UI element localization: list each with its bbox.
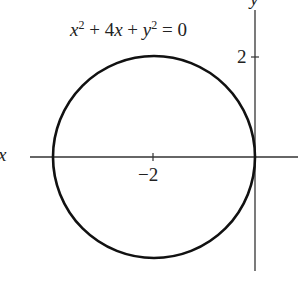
eq-y: y <box>143 19 151 40</box>
graph <box>0 0 303 291</box>
x-tick-label: −2 <box>138 164 158 186</box>
eq-end: = 0 <box>157 19 187 40</box>
eq-mid: + 4x + <box>84 19 142 40</box>
equation-label: x2 + 4x + y2 = 0 <box>70 18 187 41</box>
y-axis-label: y <box>250 0 258 10</box>
y-tick-label: 2 <box>237 46 247 68</box>
x-axis-label: x <box>0 144 6 166</box>
